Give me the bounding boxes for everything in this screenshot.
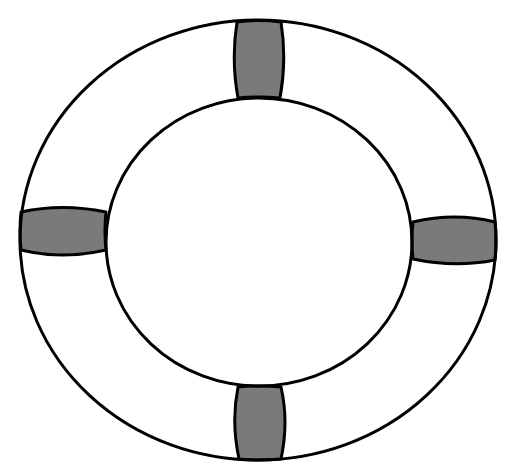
lifebuoy-illustration xyxy=(0,0,517,469)
inner-ring-outline xyxy=(106,98,412,386)
bottom-strap xyxy=(235,386,285,460)
left-strap xyxy=(20,208,106,256)
top-strap xyxy=(234,21,284,99)
right-strap xyxy=(412,217,496,264)
